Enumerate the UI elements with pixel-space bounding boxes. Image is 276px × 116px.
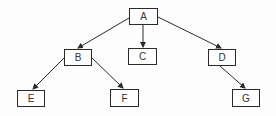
- edge-d-g: [220, 66, 245, 88]
- node-label: F: [121, 93, 127, 104]
- node-label: C: [139, 51, 146, 62]
- edge-a-b: [78, 18, 129, 48]
- node-d: D: [208, 49, 236, 66]
- edge-b-e: [33, 58, 64, 89]
- node-c: C: [128, 48, 157, 65]
- node-g: G: [232, 89, 260, 107]
- node-b: B: [64, 49, 92, 66]
- node-f: F: [110, 89, 139, 107]
- node-label: G: [242, 93, 250, 104]
- edge-b-f: [92, 58, 123, 88]
- tree-diagram: A B C D E F G: [0, 0, 276, 116]
- node-label: A: [140, 11, 147, 22]
- node-label: B: [75, 52, 82, 63]
- node-label: E: [28, 93, 35, 104]
- edge-a-d: [158, 17, 221, 48]
- node-label: D: [218, 52, 225, 63]
- node-a: A: [129, 8, 158, 25]
- node-e: E: [17, 90, 45, 107]
